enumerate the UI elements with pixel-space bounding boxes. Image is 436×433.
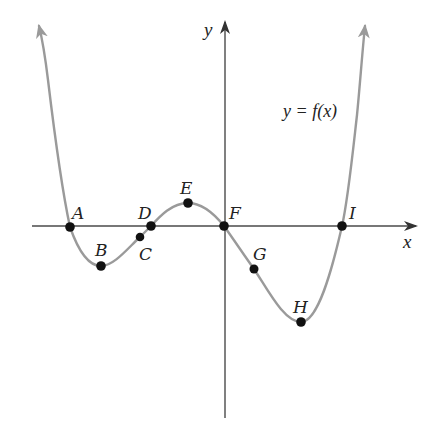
label-I: I	[348, 203, 356, 223]
label-A: A	[70, 203, 84, 223]
curve-right-branch	[342, 26, 365, 226]
y-axis-label: y	[202, 19, 213, 40]
point-F	[219, 221, 229, 231]
point-C	[136, 233, 145, 242]
label-H: H	[292, 297, 309, 317]
point-B	[96, 261, 106, 271]
function-graph: A B C D E F G H I x y y = f(x)	[0, 0, 436, 433]
x-axis-label: x	[402, 231, 412, 252]
label-F: F	[228, 203, 242, 223]
curve-left-branch	[39, 26, 70, 227]
label-B: B	[94, 240, 108, 260]
point-H	[296, 317, 306, 327]
point-I	[337, 221, 347, 231]
point-E	[183, 198, 193, 208]
label-E: E	[179, 178, 193, 198]
label-C: C	[139, 244, 152, 264]
point-G	[250, 265, 259, 274]
label-D: D	[137, 203, 152, 223]
label-G: G	[253, 244, 267, 264]
point-A	[65, 222, 75, 232]
equation-label: y = f(x)	[281, 101, 337, 122]
